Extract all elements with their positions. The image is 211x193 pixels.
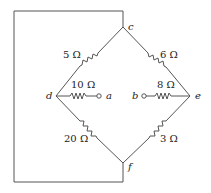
label-20-ohm: 20 Ω: [64, 133, 88, 144]
node-label-c: c: [128, 21, 134, 32]
resistor-3-ohm: [123, 96, 190, 163]
node-label-a: a: [106, 90, 112, 101]
label-6-ohm: 6 Ω: [160, 49, 178, 60]
resistor-20-ohm: [56, 96, 123, 163]
resistor-8-ohm: [146, 93, 190, 99]
node-label-d: d: [46, 90, 52, 101]
node-label-b: b: [132, 90, 138, 101]
label-10-ohm: 10 Ω: [71, 79, 95, 90]
node-label-e: e: [195, 90, 201, 101]
resistor-10-ohm: [56, 93, 97, 99]
circuit-diagram: 5 Ω 6 Ω 10 Ω a b 8 Ω 20 Ω 3 Ω c d e f: [0, 0, 211, 193]
terminal-b[interactable]: [142, 94, 146, 98]
label-5-ohm: 5 Ω: [63, 49, 81, 60]
label-8-ohm: 8 Ω: [157, 79, 175, 90]
label-3-ohm: 3 Ω: [160, 133, 178, 144]
terminal-a[interactable]: [97, 94, 101, 98]
node-label-f: f: [127, 161, 134, 172]
